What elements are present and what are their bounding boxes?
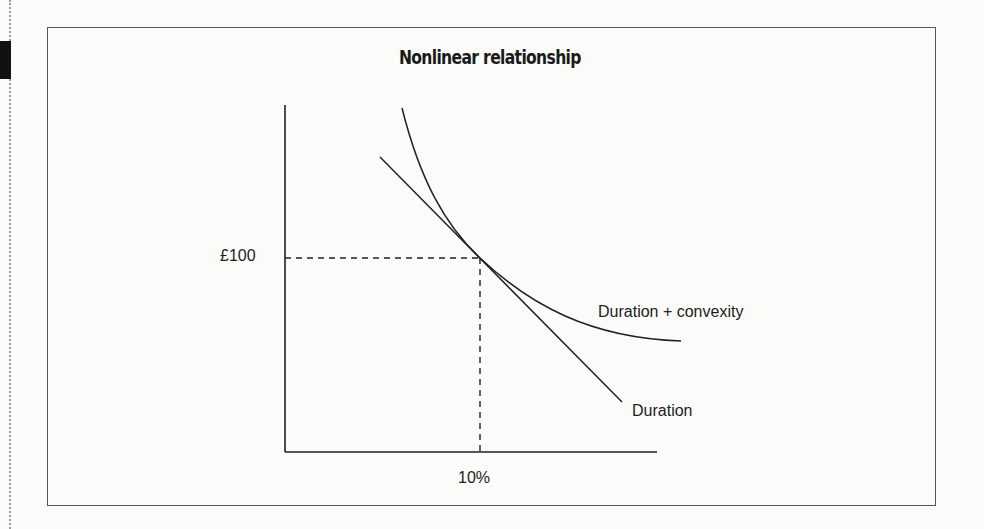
duration-line bbox=[380, 157, 622, 402]
label-duration: Duration bbox=[632, 402, 692, 420]
y-tick-label-price: £100 bbox=[220, 247, 256, 265]
x-tick-label-yield: 10% bbox=[458, 469, 490, 487]
diagram-canvas bbox=[0, 0, 984, 529]
label-duration-convexity: Duration + convexity bbox=[598, 303, 743, 321]
